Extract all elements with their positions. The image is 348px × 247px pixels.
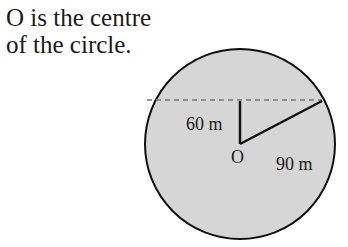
center-label: O [231,147,244,167]
vertical-length-label: 60 m [186,114,223,134]
radius-length-label: 90 m [276,154,313,174]
circle-diagram: 60 m 90 m O [0,0,348,247]
